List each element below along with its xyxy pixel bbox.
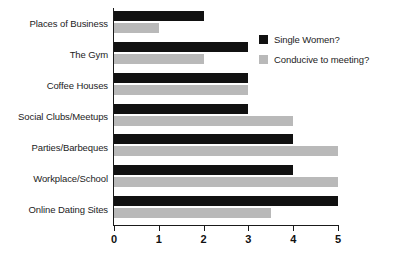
legend-item: Single Women? [259, 31, 369, 48]
x-tick-mark [114, 226, 115, 231]
category-label: The Gym [4, 49, 108, 60]
bar-single-women [114, 73, 248, 83]
bar-single-women [114, 134, 293, 144]
category-label: Parties/Barbeques [4, 142, 108, 153]
category-label: Workplace/School [4, 173, 108, 184]
category-label: Places of Business [4, 18, 108, 29]
bar-conducive-to-meeting [114, 146, 338, 156]
x-tick-label: 3 [238, 233, 258, 245]
x-tick-label: 1 [149, 233, 169, 245]
bar-group [114, 102, 338, 133]
x-tick-label: 2 [194, 233, 214, 245]
legend-swatch-icon [259, 35, 268, 44]
bar-single-women [114, 42, 248, 52]
x-tick-mark [204, 226, 205, 231]
x-tick-label: 0 [104, 233, 124, 245]
bar-conducive-to-meeting [114, 116, 293, 126]
category-label: Social Clubs/Meetups [4, 111, 108, 122]
bar-single-women [114, 196, 338, 206]
bar-conducive-to-meeting [114, 85, 248, 95]
x-tick-mark [159, 226, 160, 231]
legend-swatch-icon [259, 55, 268, 64]
bar-conducive-to-meeting [114, 23, 159, 33]
bar-single-women [114, 11, 204, 21]
bar-single-women [114, 104, 248, 114]
x-axis-line [113, 225, 339, 226]
bar-conducive-to-meeting [114, 54, 204, 64]
bar-group [114, 132, 338, 163]
x-tick-label: 5 [328, 233, 348, 245]
bar-single-women [114, 165, 293, 175]
x-tick-label: 4 [283, 233, 303, 245]
bar-conducive-to-meeting [114, 177, 338, 187]
legend-label: Single Women? [274, 34, 340, 45]
legend-label: Conducive to meeting? [274, 54, 369, 65]
x-tick-mark [248, 226, 249, 231]
bar-chart: Places of BusinessThe GymCoffee HousesSo… [0, 0, 396, 258]
category-axis-labels: Places of BusinessThe GymCoffee HousesSo… [0, 9, 108, 225]
bar-group [114, 163, 338, 194]
x-tick-mark [293, 226, 294, 231]
chart-legend: Single Women?Conducive to meeting? [259, 31, 369, 71]
legend-item: Conducive to meeting? [259, 51, 369, 68]
bar-group [114, 194, 338, 225]
category-label: Coffee Houses [4, 80, 108, 91]
category-label: Online Dating Sites [4, 204, 108, 215]
x-tick-mark [338, 226, 339, 231]
bar-conducive-to-meeting [114, 208, 271, 218]
bar-group [114, 71, 338, 102]
